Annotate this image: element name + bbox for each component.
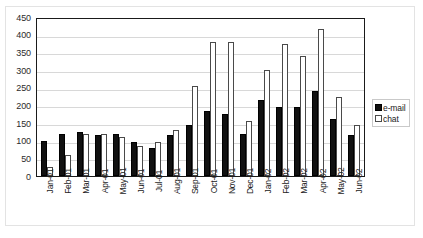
x-axis-tick-label: Feb-02 [282, 168, 291, 194]
bar-group [345, 19, 363, 176]
x-axis-tick: Sep-01 [182, 179, 200, 235]
x-axis: Jan-01Feb-01Mar-01Apr-01May-01Jun-01Jul-… [36, 179, 365, 235]
plot-area [36, 18, 365, 177]
x-axis-tick-label: Aug-01 [173, 168, 182, 194]
bar-chat [300, 56, 306, 176]
x-axis-tick: Jan-02 [255, 179, 273, 235]
x-axis-tick: Apr-01 [92, 179, 110, 235]
x-axis-tick: Jun-02 [346, 179, 364, 235]
x-axis-tick-label: Jun-02 [355, 169, 364, 194]
y-axis-tick-label: 250 [16, 84, 31, 93]
legend-label: e-mail [383, 103, 406, 113]
x-axis-tick-label: Apr-02 [319, 169, 328, 193]
bar-group [327, 19, 345, 176]
x-axis-tick: Feb-02 [273, 179, 291, 235]
bar-chat [228, 42, 234, 176]
legend-item-chat: chat [375, 113, 406, 124]
x-axis-tick-label: Jul-01 [155, 170, 164, 192]
bar-group [92, 19, 110, 176]
legend-swatch-icon [375, 115, 382, 122]
bar-group [146, 19, 164, 176]
bar-group [237, 19, 255, 176]
x-axis-tick-label: Apr-01 [101, 169, 110, 193]
x-axis-tick: Feb-01 [55, 179, 73, 235]
y-axis-tick-label: 50 [21, 155, 31, 164]
y-axis-tick-label: 450 [16, 14, 31, 23]
bar-group [273, 19, 291, 176]
legend-label: chat [383, 114, 399, 124]
x-axis-tick: Nov-01 [219, 179, 237, 235]
x-axis-tick-label: Jan-01 [46, 169, 55, 194]
x-axis-tick-label: Jan-02 [264, 169, 273, 194]
y-axis: 450400350300250200150100500 [0, 0, 34, 238]
x-axis-tick: May-01 [110, 179, 128, 235]
bar-group [183, 19, 201, 176]
bar-chat [192, 86, 198, 176]
x-axis-tick-label: Oct-01 [210, 169, 219, 193]
bar-group [309, 19, 327, 176]
y-axis-tick-label: 350 [16, 49, 31, 58]
x-axis-tick: Jan-01 [37, 179, 55, 235]
x-axis-tick: Jul-01 [146, 179, 164, 235]
bar-group [291, 19, 309, 176]
bar-chat [264, 70, 270, 176]
x-axis-tick: May-02 [328, 179, 346, 235]
x-axis-tick-label: Nov-01 [228, 168, 237, 194]
x-axis-tick: Dec-01 [237, 179, 255, 235]
x-axis-tick: Aug-01 [164, 179, 182, 235]
bar-group [255, 19, 273, 176]
bar-chat [336, 97, 342, 177]
legend-item-e-mail: e-mail [375, 102, 406, 113]
bar-chat [282, 44, 288, 177]
bar-group [164, 19, 182, 176]
x-axis-tick-label: May-02 [337, 167, 346, 194]
x-axis-tick: Apr-02 [310, 179, 328, 235]
bar-group [219, 19, 237, 176]
x-axis-tick-label: May-01 [119, 167, 128, 194]
bar-group [110, 19, 128, 176]
chart-legend: e-mailchat [372, 99, 410, 127]
x-axis-tick-label: Jun-01 [137, 169, 146, 194]
bar-group [128, 19, 146, 176]
y-axis-tick-label: 100 [16, 137, 31, 146]
x-axis-tick: Mar-01 [73, 179, 91, 235]
bar-group [201, 19, 219, 176]
x-axis-tick-label: Mar-01 [82, 168, 91, 194]
bars-layer [37, 19, 364, 176]
x-axis-tick-label: Feb-01 [64, 168, 73, 194]
bar-group [74, 19, 92, 176]
bar-group [38, 19, 56, 176]
bar-chart: 450400350300250200150100500 Jan-01Feb-01… [0, 0, 423, 238]
x-axis-tick-label: Mar-02 [300, 168, 309, 194]
x-axis-tick: Mar-02 [291, 179, 309, 235]
legend-swatch-icon [375, 104, 382, 111]
y-axis-tick-label: 200 [16, 102, 31, 111]
x-axis-tick: Oct-01 [201, 179, 219, 235]
y-axis-tick-label: 150 [16, 120, 31, 129]
bar-group [56, 19, 74, 176]
x-axis-tick: Jun-01 [128, 179, 146, 235]
bar-chat [318, 29, 324, 176]
x-axis-tick-label: Dec-01 [246, 168, 255, 194]
y-axis-tick-label: 0 [26, 173, 31, 182]
x-axis-tick-label: Sep-01 [191, 168, 200, 194]
bar-chat [210, 42, 216, 176]
y-axis-tick-label: 400 [16, 31, 31, 40]
y-axis-tick-label: 300 [16, 67, 31, 76]
